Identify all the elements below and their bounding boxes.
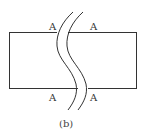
figure-caption: (b) <box>59 118 73 129</box>
label-top-right: A <box>89 21 98 32</box>
diagram: A A A A (b) <box>0 0 148 137</box>
label-bottom-right: A <box>89 92 98 103</box>
break-mark <box>57 12 87 110</box>
label-bottom-left: A <box>48 92 57 103</box>
label-top-left: A <box>48 21 57 32</box>
break-line-right <box>67 12 87 110</box>
